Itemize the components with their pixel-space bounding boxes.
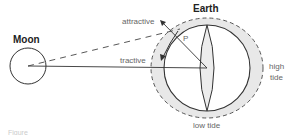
high-tide-label-line1: high (269, 62, 284, 71)
high-tide-label-line2: tide (270, 73, 283, 82)
earth-label: Earth (193, 3, 219, 14)
moon-label: Moon (13, 34, 40, 45)
tractive-label: tractive (120, 56, 146, 65)
point-p-label: P (183, 34, 188, 43)
low-tide-label: low tide (193, 121, 220, 130)
figure-caption: Figure (8, 129, 28, 135)
attractive-label: attractive (122, 17, 154, 26)
